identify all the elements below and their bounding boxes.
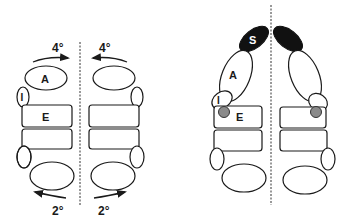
diagram-figure: 4° 4° A I E 2° 2° S A I: [0, 0, 348, 221]
bone-I-right: [131, 87, 143, 107]
label-A-right-panel: A: [229, 69, 237, 81]
bone-lower-small-right-r: [321, 148, 335, 170]
bone-lower-rect-left-r: [214, 130, 262, 151]
marker-dot-right: [311, 107, 322, 118]
rotation-arrow-top-left: [33, 58, 68, 63]
left-panel: 4° 4° A I E 2° 2°: [17, 41, 144, 218]
angle-label-top-right: 4°: [99, 41, 111, 55]
label-I-left: I: [21, 92, 24, 103]
label-A-left: A: [41, 73, 49, 85]
label-E-left: E: [42, 111, 49, 123]
angle-label-bottom-left: 2°: [52, 204, 64, 218]
label-S: S: [249, 34, 256, 46]
bone-lower-large-right: [91, 162, 135, 190]
rotation-arrow-bottom-right: [94, 192, 125, 198]
rotation-arrow-top-right: [93, 58, 127, 63]
bone-lower-rect-right-r: [280, 130, 327, 151]
bone-lower-large-left-r: [222, 164, 266, 192]
bone-lower-small-left-r: [210, 148, 224, 170]
marker-dot-left: [219, 107, 230, 118]
right-panel: S A I E: [208, 5, 335, 205]
angle-label-top-left: 4°: [52, 41, 64, 55]
bone-lower-rect-right: [89, 129, 139, 149]
angle-label-bottom-right: 2°: [98, 204, 110, 218]
bone-lower-small-right: [130, 146, 144, 168]
bone-A-right: [93, 66, 135, 90]
rotation-arrow-bottom-left: [35, 192, 66, 198]
label-I-right-panel: I: [217, 95, 220, 106]
bone-lower-large-left: [30, 162, 74, 190]
bone-lower-rect-left: [22, 129, 72, 149]
label-E-right-panel: E: [236, 111, 243, 123]
bone-E-right: [89, 105, 139, 127]
bone-lower-large-right-r: [283, 166, 327, 194]
